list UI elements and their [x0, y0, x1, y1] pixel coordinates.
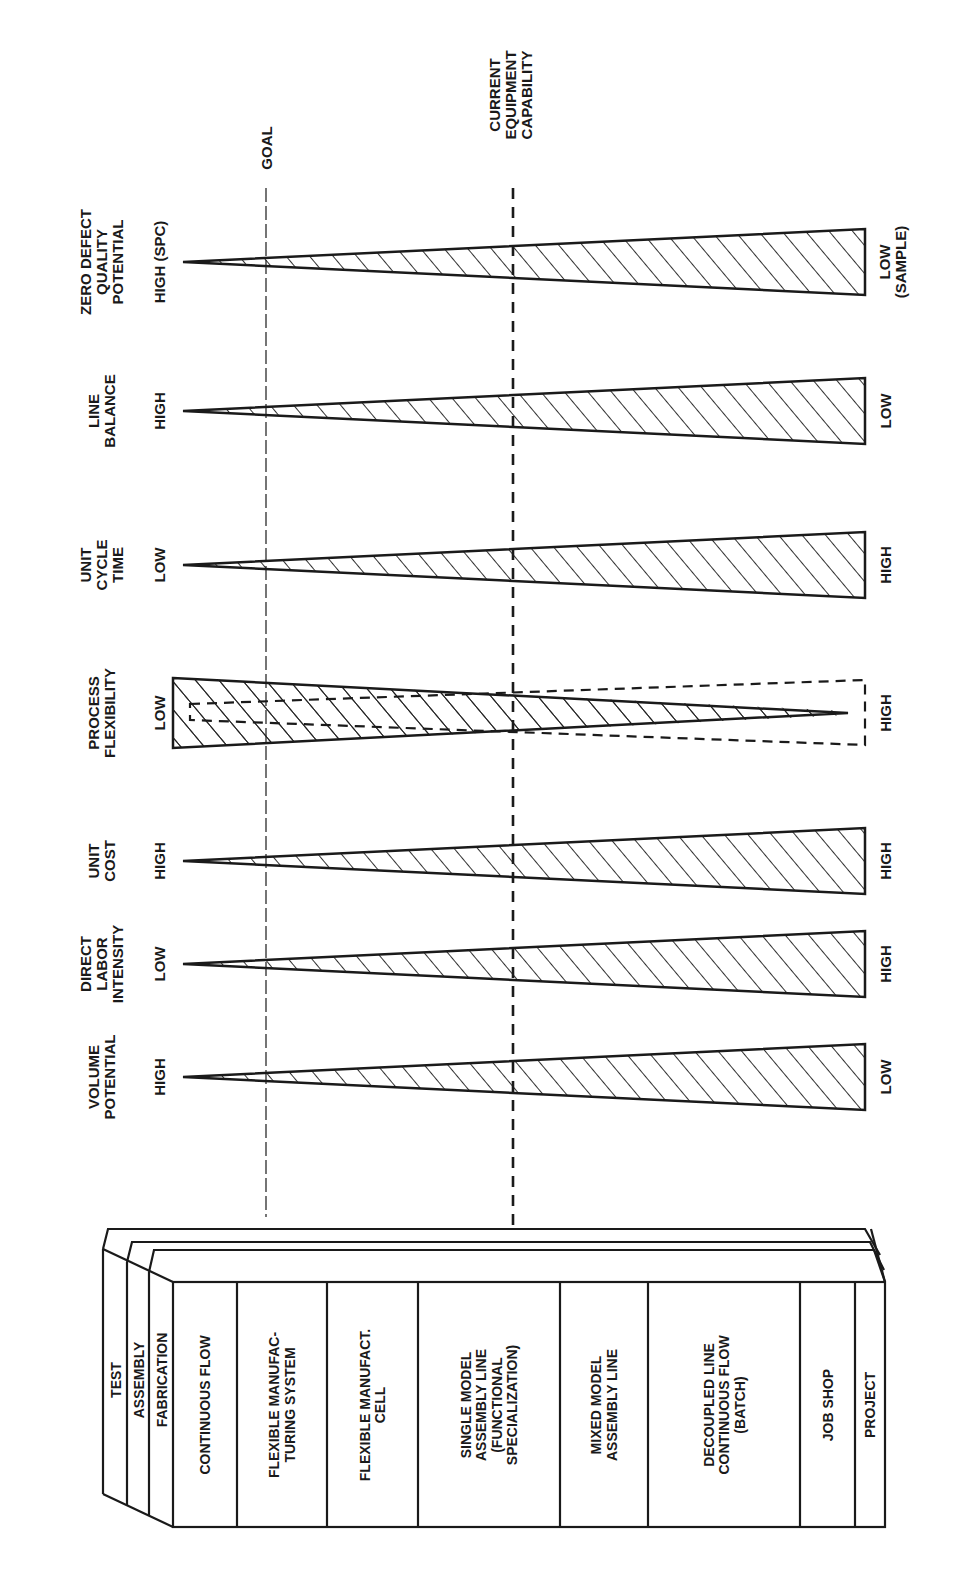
manufacturing-process-diagram: VOLUMEPOTENTIALHIGHLOWDIRECTLABORINTENSI… — [0, 0, 960, 1591]
start-label-line-balance: HIGH — [151, 392, 168, 430]
svg-text:HIGH: HIGH — [151, 842, 168, 880]
svg-text:VOLUME: VOLUME — [85, 1045, 102, 1109]
svg-text:CAPABILITY: CAPABILITY — [518, 51, 535, 140]
wedge-zero-defect-quality-potential — [183, 229, 865, 295]
process-column-5: MIXED MODELASSEMBLY LINE — [588, 1349, 620, 1461]
svg-text:POTENTIAL: POTENTIAL — [109, 220, 126, 305]
svg-text:HIGH: HIGH — [151, 1058, 168, 1096]
wedge-direct-labor-intensity — [183, 931, 865, 997]
svg-text:UNIT: UNIT — [77, 548, 94, 583]
svg-text:SINGLE MODEL: SINGLE MODEL — [458, 1351, 474, 1458]
svg-text:HIGH: HIGH — [877, 842, 894, 880]
svg-text:LOW: LOW — [877, 1059, 894, 1095]
process-column-7: JOB SHOP — [820, 1369, 836, 1441]
svg-text:MIXED MODEL: MIXED MODEL — [588, 1355, 604, 1454]
svg-text:LOW: LOW — [877, 393, 894, 429]
end-label-zero-defect-quality-potential: LOW(SAMPLE) — [876, 226, 909, 299]
svg-text:CURRENT: CURRENT — [486, 58, 503, 131]
svg-text:LOW: LOW — [151, 946, 168, 982]
process-column-4: SINGLE MODELASSEMBLY LINE(FUNCTIONALSPEC… — [458, 1345, 520, 1465]
svg-text:CONTINUOUS FLOW: CONTINUOUS FLOW — [197, 1335, 213, 1475]
wedge-process-flexibility — [173, 678, 865, 748]
layer-label-test: TEST — [108, 1362, 124, 1398]
svg-text:(FUNCTIONAL: (FUNCTIONAL — [489, 1357, 505, 1453]
svg-text:GOAL: GOAL — [258, 126, 275, 169]
svg-text:EQUIPMENT: EQUIPMENT — [502, 50, 519, 139]
start-label-volume-potential: HIGH — [151, 1058, 168, 1096]
svg-text:TURING SYSTEM: TURING SYSTEM — [282, 1347, 298, 1462]
svg-text:FLEXIBLE MANUFAC-: FLEXIBLE MANUFAC- — [266, 1332, 282, 1479]
svg-text:LOW: LOW — [876, 244, 893, 280]
svg-text:TIME: TIME — [109, 547, 126, 583]
process-column-8: PROJECT — [862, 1371, 878, 1438]
svg-text:FLEXIBLE MANUFACT.: FLEXIBLE MANUFACT. — [357, 1329, 373, 1481]
svg-text:UNIT: UNIT — [85, 844, 102, 879]
start-label-process-flexibility: LOW — [151, 695, 168, 731]
end-label-unit-cycle-time: HIGH — [877, 546, 894, 584]
svg-text:LINE: LINE — [85, 394, 102, 428]
svg-text:TEST: TEST — [108, 1362, 124, 1398]
current-equipment-label: CURRENTEQUIPMENTCAPABILITY — [486, 50, 535, 139]
svg-text:SPECIALIZATION): SPECIALIZATION) — [504, 1345, 520, 1465]
svg-text:DIRECT: DIRECT — [77, 936, 94, 992]
svg-text:ASSEMBLY LINE: ASSEMBLY LINE — [473, 1349, 489, 1461]
svg-text:PROCESS: PROCESS — [85, 676, 102, 749]
goal-label: GOAL — [258, 126, 275, 169]
end-label-process-flexibility: HIGH — [877, 694, 894, 732]
svg-text:COST: COST — [101, 840, 118, 882]
end-label-unit-cost: HIGH — [877, 842, 894, 880]
wedge-unit-cost — [183, 828, 865, 894]
layer-label-assembly: ASSEMBLY — [131, 1341, 147, 1418]
svg-text:HIGH (SPC): HIGH (SPC) — [151, 221, 168, 304]
end-label-line-balance: LOW — [877, 393, 894, 429]
metric-wedges — [173, 229, 865, 1110]
svg-text:LABOR: LABOR — [93, 937, 110, 990]
wedge-line-balance — [183, 378, 865, 444]
svg-text:HIGH: HIGH — [151, 392, 168, 430]
svg-text:HIGH: HIGH — [877, 546, 894, 584]
svg-text:ASSEMBLY LINE: ASSEMBLY LINE — [604, 1349, 620, 1461]
metric-title-unit-cost: UNITCOST — [85, 840, 118, 882]
svg-text:LOW: LOW — [151, 695, 168, 731]
metric-title-process-flexibility: PROCESSFLEXIBILITY — [85, 668, 118, 758]
svg-text:CYCLE: CYCLE — [93, 540, 110, 591]
svg-text:HIGH: HIGH — [877, 945, 894, 983]
metric-title-zero-defect-quality-potential: ZERO DEFECTQUALITYPOTENTIAL — [77, 209, 126, 315]
svg-text:INTENSITY: INTENSITY — [109, 925, 126, 1003]
layer-label-fabrication: FABRICATION — [154, 1333, 170, 1428]
wedge-unit-cycle-time — [183, 532, 865, 598]
end-label-volume-potential: LOW — [877, 1059, 894, 1095]
svg-text:FLEXIBILITY: FLEXIBILITY — [101, 668, 118, 758]
svg-text:CELL: CELL — [372, 1386, 388, 1423]
start-label-zero-defect-quality-potential: HIGH (SPC) — [151, 221, 168, 304]
start-label-unit-cycle-time: LOW — [151, 547, 168, 583]
svg-text:LOW: LOW — [151, 547, 168, 583]
svg-text:(BATCH): (BATCH) — [732, 1376, 748, 1433]
svg-text:JOB SHOP: JOB SHOP — [820, 1369, 836, 1441]
end-label-direct-labor-intensity: HIGH — [877, 945, 894, 983]
svg-text:PROJECT: PROJECT — [862, 1371, 878, 1438]
wedge-volume-potential — [183, 1044, 865, 1110]
process-column-2: FLEXIBLE MANUFAC-TURING SYSTEM — [266, 1332, 298, 1479]
svg-text:BALANCE: BALANCE — [101, 374, 118, 447]
svg-text:POTENTIAL: POTENTIAL — [101, 1035, 118, 1120]
metric-title-unit-cycle-time: UNITCYCLETIME — [77, 540, 126, 591]
metric-title-volume-potential: VOLUMEPOTENTIAL — [85, 1035, 118, 1120]
svg-text:QUALITY: QUALITY — [93, 229, 110, 295]
process-column-1: CONTINUOUS FLOW — [197, 1335, 213, 1475]
svg-text:DECOUPLED LINE: DECOUPLED LINE — [701, 1343, 717, 1467]
start-label-direct-labor-intensity: LOW — [151, 946, 168, 982]
svg-text:ZERO DEFECT: ZERO DEFECT — [77, 209, 94, 315]
svg-text:FABRICATION: FABRICATION — [154, 1333, 170, 1428]
svg-text:CONTINUOUS FLOW: CONTINUOUS FLOW — [716, 1335, 732, 1475]
svg-text:(SAMPLE): (SAMPLE) — [892, 226, 909, 299]
metric-title-direct-labor-intensity: DIRECTLABORINTENSITY — [77, 925, 126, 1003]
svg-text:HIGH: HIGH — [877, 694, 894, 732]
metric-title-line-balance: LINEBALANCE — [85, 374, 118, 447]
start-label-unit-cost: HIGH — [151, 842, 168, 880]
svg-text:ASSEMBLY: ASSEMBLY — [131, 1341, 147, 1418]
